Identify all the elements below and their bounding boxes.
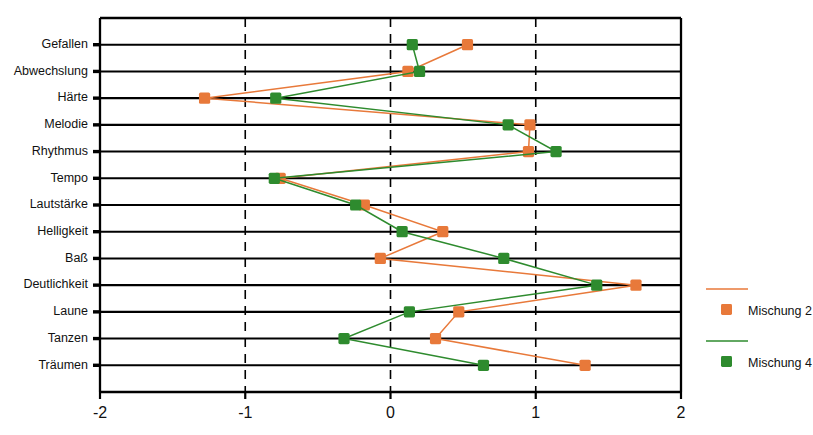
data-point-marker — [498, 253, 509, 264]
category-label: Deutlichkeit — [23, 277, 88, 291]
category-label: Gefallen — [41, 37, 88, 51]
x-tick-label: -1 — [238, 404, 252, 421]
data-point-marker — [591, 280, 602, 291]
category-label: Baß — [65, 251, 88, 265]
data-point-marker — [404, 306, 415, 317]
data-point-marker — [478, 360, 489, 371]
category-label: Laune — [53, 304, 88, 318]
category-label: Träumen — [38, 358, 88, 372]
data-point-marker — [407, 39, 418, 50]
category-label: Melodie — [44, 117, 88, 131]
data-point-marker — [350, 199, 361, 210]
data-point-marker — [462, 39, 473, 50]
legend-label-1: Mischung 2 — [748, 304, 812, 318]
x-tick-label: 0 — [386, 404, 395, 421]
x-tick-label: 2 — [677, 404, 686, 421]
data-point-marker — [402, 66, 413, 77]
data-point-marker — [580, 360, 591, 371]
data-point-marker — [453, 306, 464, 317]
category-label: Härte — [57, 90, 88, 104]
category-label: Abwechslung — [14, 64, 88, 78]
data-point-marker — [269, 173, 280, 184]
chart-background — [0, 0, 813, 435]
chart-container: GefallenAbwechslungHärteMelodieRhythmusT… — [0, 0, 813, 435]
x-tick-label: 1 — [531, 404, 540, 421]
horizontal-profile-line-chart: GefallenAbwechslungHärteMelodieRhythmusT… — [0, 0, 813, 435]
legend-marker-swatch-1 — [721, 304, 732, 315]
category-label: Rhythmus — [32, 144, 88, 158]
data-point-marker — [430, 333, 441, 344]
legend-label-2: Mischung 4 — [748, 356, 812, 370]
x-tick-label: -2 — [93, 404, 107, 421]
legend-marker-swatch-2 — [721, 356, 732, 367]
data-point-marker — [375, 253, 386, 264]
data-point-marker — [630, 280, 641, 291]
data-point-marker — [338, 333, 349, 344]
data-point-marker — [523, 146, 534, 157]
data-point-marker — [414, 66, 425, 77]
data-point-marker — [503, 119, 514, 130]
data-point-marker — [437, 226, 448, 237]
category-label: Lautstärke — [30, 197, 88, 211]
data-point-marker — [550, 146, 561, 157]
data-point-marker — [524, 119, 535, 130]
data-point-marker — [199, 93, 210, 104]
data-point-marker — [270, 93, 281, 104]
category-label: Tempo — [50, 171, 88, 185]
category-label: Helligkeit — [37, 224, 88, 238]
category-label: Tanzen — [48, 331, 88, 345]
data-point-marker — [397, 226, 408, 237]
